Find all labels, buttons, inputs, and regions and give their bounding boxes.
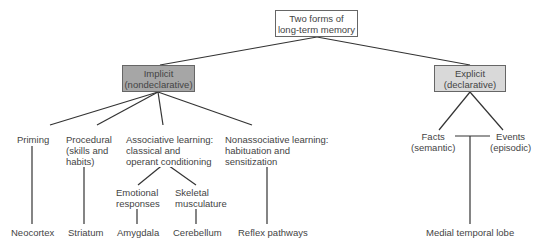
root-label: Two forms of long-term memory <box>278 13 355 35</box>
region-cerebellum: Cerebellum <box>173 227 222 238</box>
region-reflex-pathways: Reflex pathways <box>238 227 308 238</box>
facts-node: Facts (semantic) <box>411 131 455 153</box>
explicit-label: Explicit (declarative) <box>444 68 496 90</box>
associative-node: Associative learning: classical and oper… <box>126 134 213 167</box>
procedural-node: Procedural (skills and habits) <box>66 134 112 167</box>
region-neocortex: Neocortex <box>11 227 54 238</box>
implicit-label: Implicit (nondeclarative) <box>124 68 192 90</box>
region-medial-temporal-lobe: Medial temporal lobe <box>426 227 514 238</box>
emotional-node: Emotional responses <box>116 187 160 209</box>
skeletal-node: Skeletal musculature <box>175 187 227 209</box>
region-amygdala: Amygdala <box>117 227 159 238</box>
region-striatum: Striatum <box>68 227 103 238</box>
events-node: Events (episodic) <box>490 131 531 153</box>
explicit-node: Explicit (declarative) <box>434 65 506 92</box>
priming-node: Priming <box>17 134 49 145</box>
root-node: Two forms of long-term memory <box>275 10 358 37</box>
nonassociative-node: Nonassociative learning: habituation and… <box>225 134 329 167</box>
implicit-node: Implicit (nondeclarative) <box>122 65 195 92</box>
connector-lines <box>0 0 537 246</box>
